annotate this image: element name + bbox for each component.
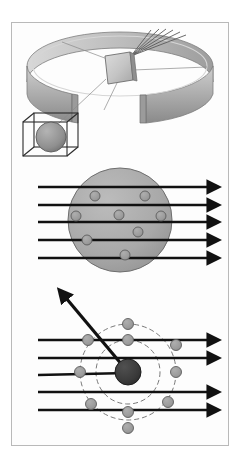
- electron: [82, 235, 92, 245]
- electron: [123, 407, 134, 418]
- electron: [123, 335, 134, 346]
- electron: [140, 191, 150, 201]
- rutherford-nuclear-panel: [38, 298, 208, 434]
- electron: [83, 335, 94, 346]
- atomic-nucleus: [115, 359, 141, 385]
- electron: [156, 211, 166, 221]
- scattering-diagram: [0, 0, 241, 456]
- electron: [123, 319, 134, 330]
- electron: [123, 423, 134, 434]
- electron: [90, 191, 100, 201]
- atom-inset-sphere: [36, 122, 66, 152]
- electron: [163, 397, 174, 408]
- electron: [114, 210, 124, 220]
- scattering-apparatus-panel: [23, 29, 213, 156]
- ring-end-right: [140, 95, 146, 123]
- backscattered-alpha-ray: [66, 298, 128, 372]
- electron: [75, 367, 86, 378]
- thomson-plum-pudding-panel: [38, 168, 208, 272]
- gold-foil-target: [105, 52, 137, 84]
- electron: [86, 399, 97, 410]
- electron: [171, 340, 182, 351]
- figure-root: [0, 0, 241, 456]
- electron: [133, 227, 143, 237]
- electron: [171, 367, 182, 378]
- electron: [71, 211, 81, 221]
- electron: [120, 250, 130, 260]
